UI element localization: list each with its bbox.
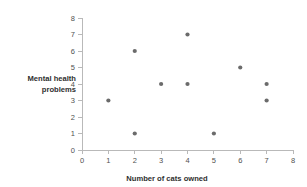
- data-point: [185, 32, 189, 36]
- axis-titles: Number of cats owned Mental health probl…: [27, 74, 208, 183]
- y-tick-label: 7: [71, 30, 75, 39]
- y-axis-title-line-2: problems: [42, 85, 76, 94]
- x-tick-label: 0: [80, 156, 84, 165]
- chart-canvas: 012345678 012345678 Number of cats owned…: [0, 0, 307, 187]
- y-tick-label: 2: [71, 113, 75, 122]
- data-point: [106, 98, 110, 102]
- scatter-chart: 012345678 012345678 Number of cats owned…: [0, 0, 307, 187]
- x-tick-label: 5: [212, 156, 216, 165]
- y-tick-label: 0: [71, 146, 75, 155]
- x-axis-ticks: 012345678: [80, 150, 295, 165]
- data-point: [212, 131, 216, 135]
- x-tick-label: 2: [133, 156, 137, 165]
- y-tick-label: 1: [71, 129, 75, 138]
- x-tick-label: 3: [159, 156, 163, 165]
- data-point: [238, 65, 242, 69]
- data-point: [185, 82, 189, 86]
- data-point: [133, 49, 137, 53]
- data-point: [265, 82, 269, 86]
- y-tick-label: 8: [71, 14, 75, 23]
- y-tick-label: 5: [71, 63, 75, 72]
- x-tick-label: 8: [291, 156, 295, 165]
- y-tick-label: 3: [71, 96, 75, 105]
- data-point: [133, 131, 137, 135]
- y-axis-title-line-1: Mental health: [27, 74, 76, 83]
- x-tick-label: 6: [238, 156, 242, 165]
- data-point: [265, 98, 269, 102]
- y-tick-label: 6: [71, 47, 75, 56]
- x-tick-label: 7: [265, 156, 269, 165]
- x-tick-label: 4: [185, 156, 189, 165]
- x-tick-label: 1: [106, 156, 110, 165]
- data-point: [159, 82, 163, 86]
- x-axis-title: Number of cats owned: [126, 174, 208, 183]
- data-points: [106, 32, 268, 135]
